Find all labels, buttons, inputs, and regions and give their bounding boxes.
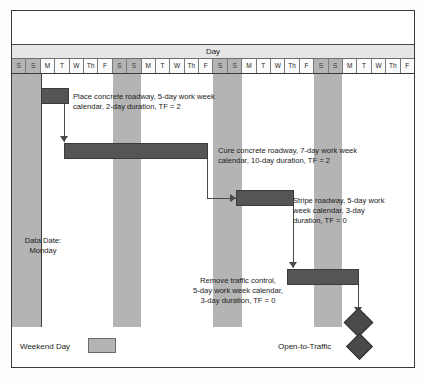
day-header-cell: F [98,59,112,73]
task-bar-place-concrete-roadway[interactable] [41,88,70,104]
day-header-cell: T [357,59,371,73]
day-header-cell: S [113,59,127,73]
arrow-task3-to-task4 [289,262,297,268]
day-header-cell: W [271,59,285,73]
day-header-cell: S [329,59,343,73]
task2-annotation: Cure concrete roadway, 7-day work week c… [218,146,418,166]
day-header-cell: M [142,59,156,73]
task4-annotation: Remove traffic control, 5-day work week … [175,276,301,306]
day-header-cell: M [41,59,55,73]
data-date-annotation: Data Date: Monday [13,236,73,256]
day-header-cell: M [343,59,357,73]
arrow-task2-to-task3 [230,194,236,202]
legend-weekend-label: Weekend Day [20,341,70,352]
day-header-cell: F [300,59,314,73]
day-header-cell: W [170,59,184,73]
gantt-chart-figure: Day SSMTWThFSSMTWThFSSMTWThFSSMTWThF [0,0,426,382]
day-header-row: SSMTWThFSSMTWThFSSMTWThFSSMTWThF [12,59,414,74]
day-header-cell: S [127,59,141,73]
day-header-cell: T [55,59,69,73]
day-header-cell: F [401,59,414,73]
day-header-cell: M [242,59,256,73]
day-header-cell: S [228,59,242,73]
day-header-cell: S [26,59,40,73]
task3-annotation: Stripe roadway, 5-day work week calendar… [293,196,413,226]
day-header-cell: S [12,59,26,73]
day-header-cell: F [199,59,213,73]
day-header-cell: S [314,59,328,73]
legend-milestone-label: Open-to-Traffic [278,341,331,352]
day-header-cell: T [156,59,170,73]
day-header-cell: Th [185,59,199,73]
day-header-cell: S [213,59,227,73]
arrow-task1-to-task2 [60,136,68,142]
day-header-cell: T [257,59,271,73]
connector-task2-to-task3-vertical [207,159,208,198]
day-header-cell: Th [285,59,299,73]
task-bar-stripe-roadway[interactable] [236,190,293,206]
day-header-cell: W [70,59,84,73]
legend-weekend-swatch [88,338,116,353]
weekend-column [12,74,41,327]
day-header-cell: Th [84,59,98,73]
task1-annotation: Place concrete roadway, 5-day work week … [73,92,303,112]
data-date-line [41,74,42,327]
day-header-cell: W [372,59,386,73]
task-bar-cure-concrete-roadway[interactable] [64,143,208,159]
day-axis-title: Day [12,44,414,59]
day-header-cell: Th [386,59,400,73]
